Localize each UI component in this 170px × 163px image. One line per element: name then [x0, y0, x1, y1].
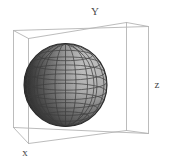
box-edge-top-front	[29, 23, 127, 39]
figure-container: Y z x	[0, 0, 170, 163]
box-edge-top-right-depth	[127, 23, 149, 27]
axis-label-y: Y	[91, 5, 99, 17]
box-edge-bottom-front	[29, 131, 127, 144]
box-edge-bottom-left-depth	[14, 128, 29, 144]
sphere-object	[24, 44, 107, 127]
box-edge-top-left-depth	[14, 31, 29, 39]
axis-label-x: x	[22, 146, 28, 158]
three-d-plot: Y z x	[0, 0, 170, 163]
axis-label-z: z	[155, 78, 160, 90]
